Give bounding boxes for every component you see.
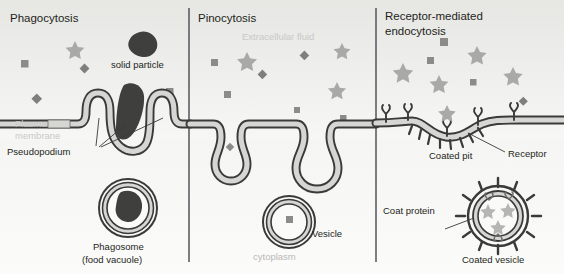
label-receptor: Receptor — [508, 148, 547, 159]
panel-title-pinocytosis: Pinocytosis — [198, 12, 256, 26]
label-solid-particle: solid particle — [111, 59, 164, 70]
panel-title-phagocytosis: Phagocytosis — [10, 12, 78, 26]
label-pseudopodium: Pseudopodium — [7, 146, 70, 157]
label-coated-pit: Coated pit — [429, 150, 472, 161]
panel-title-rme-line2: endocytosis — [385, 25, 446, 39]
endocytosis-diagram: Phagocytosis Pinocytosis Receptor-mediat… — [0, 0, 564, 274]
square-particle — [440, 38, 448, 46]
label-extracellular-fluid: Extracellular fluid — [242, 31, 314, 42]
panel-title-rme-line1: Receptor-mediated — [385, 10, 483, 24]
square-particle — [224, 91, 231, 98]
square-particle — [21, 60, 29, 68]
square-particle — [427, 57, 434, 64]
vesicle-contents-square — [286, 216, 293, 223]
plasma-membrane-swatch — [48, 120, 70, 128]
label-phagosome: Phagosome — [93, 241, 144, 252]
label-coat-protein: Coat protein — [383, 205, 435, 216]
square-particle — [211, 59, 218, 66]
label-cytoplasm: cytoplasm — [253, 251, 296, 262]
square-particle — [470, 79, 477, 86]
label-vesicle: Vesicle — [312, 228, 342, 239]
label-coated-vesicle: Coated vesicle — [462, 254, 524, 265]
square-particle — [294, 107, 300, 113]
label-plasma-membrane-line2: membrane — [15, 130, 60, 141]
label-food-vacuole: (food vacuole) — [82, 254, 142, 265]
label-plasma-membrane-line1: Plasma — [15, 118, 47, 129]
